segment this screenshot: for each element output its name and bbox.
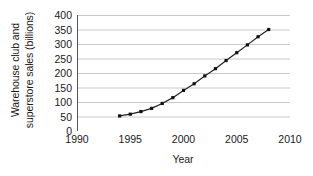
data-point-marker	[246, 43, 249, 46]
data-point-marker	[171, 96, 174, 99]
warehouse-sales-line-chart: Warehouse club and superstore sales (bil…	[0, 0, 313, 176]
y-tick-label: 300	[46, 39, 72, 49]
x-tick-label: 2000	[167, 134, 201, 145]
y-tick-label: 150	[46, 83, 72, 93]
data-point-marker	[203, 74, 206, 77]
data-point-marker	[161, 102, 164, 105]
x-tick-label: 1990	[60, 134, 94, 145]
data-point-marker	[225, 59, 228, 62]
data-point-marker	[267, 28, 270, 31]
x-axis-tick-labels: 19901995200020052010	[0, 134, 313, 148]
data-point-marker	[235, 51, 238, 54]
data-point-marker	[182, 89, 185, 92]
y-tick-label: 350	[46, 25, 72, 35]
x-tick-label: 1995	[113, 134, 147, 145]
y-axis-title-line-1: Warehouse club and	[10, 23, 21, 117]
data-point-marker	[150, 107, 153, 110]
y-tick-label: 250	[46, 54, 72, 64]
y-tick-label: 50	[46, 112, 72, 122]
y-axis-title-line-2: superstore sales (billions)	[24, 12, 35, 128]
data-point-marker	[193, 82, 196, 85]
data-point-marker	[214, 67, 217, 70]
x-axis-title: Year	[76, 153, 290, 165]
x-tick-label: 2005	[220, 134, 254, 145]
y-tick-label: 100	[46, 97, 72, 107]
y-tick-label: 400	[46, 10, 72, 20]
data-point-marker	[129, 113, 132, 116]
x-tick-label: 2010	[273, 134, 307, 145]
data-point-marker	[139, 110, 142, 113]
y-axis-tick-labels: 050100150200250300350400	[44, 0, 72, 176]
data-point-marker	[256, 35, 259, 38]
y-tick-label: 200	[46, 68, 72, 78]
plot-svg	[77, 15, 290, 131]
data-point-marker	[118, 114, 121, 117]
y-axis-title: Warehouse club and superstore sales (bil…	[2, 0, 42, 140]
plot-area	[77, 15, 290, 131]
